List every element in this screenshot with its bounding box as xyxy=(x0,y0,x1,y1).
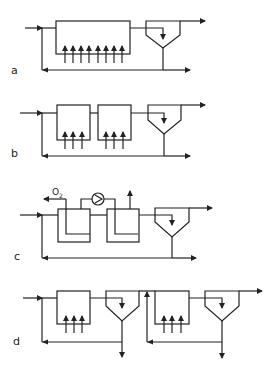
aeration-tank xyxy=(56,21,130,54)
oxygen-lance xyxy=(66,199,90,234)
inner-pipe xyxy=(115,209,138,234)
panel-label-b: b xyxy=(11,147,18,160)
panel-a: a xyxy=(11,21,205,77)
svg-text:2: 2 xyxy=(59,192,63,199)
panel-c: c O 2 xyxy=(14,187,212,263)
reactor-1 xyxy=(58,209,90,242)
process-flow-diagram: a b xyxy=(0,0,269,373)
panel-label-a: a xyxy=(11,64,18,77)
panel-label-d: d xyxy=(13,335,20,348)
panel-d: d xyxy=(13,291,262,358)
panel-b: b xyxy=(11,105,205,160)
reactor-2 xyxy=(107,209,139,242)
panel-label-c: c xyxy=(14,250,20,263)
